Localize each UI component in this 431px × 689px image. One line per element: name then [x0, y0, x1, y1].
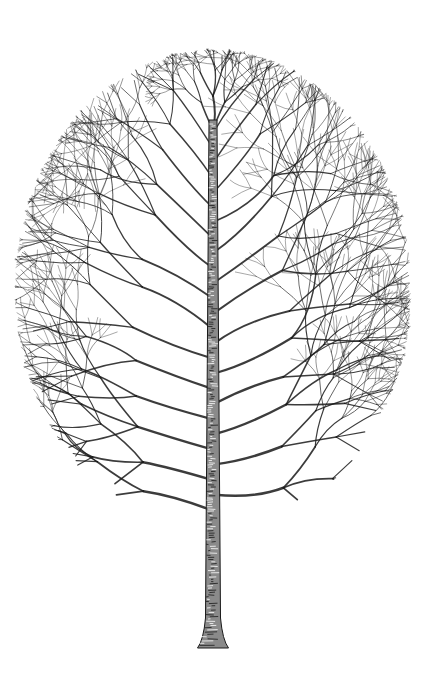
tree-illustration — [0, 0, 431, 689]
tree-trunk — [198, 120, 229, 648]
illustration-canvas — [0, 0, 431, 689]
